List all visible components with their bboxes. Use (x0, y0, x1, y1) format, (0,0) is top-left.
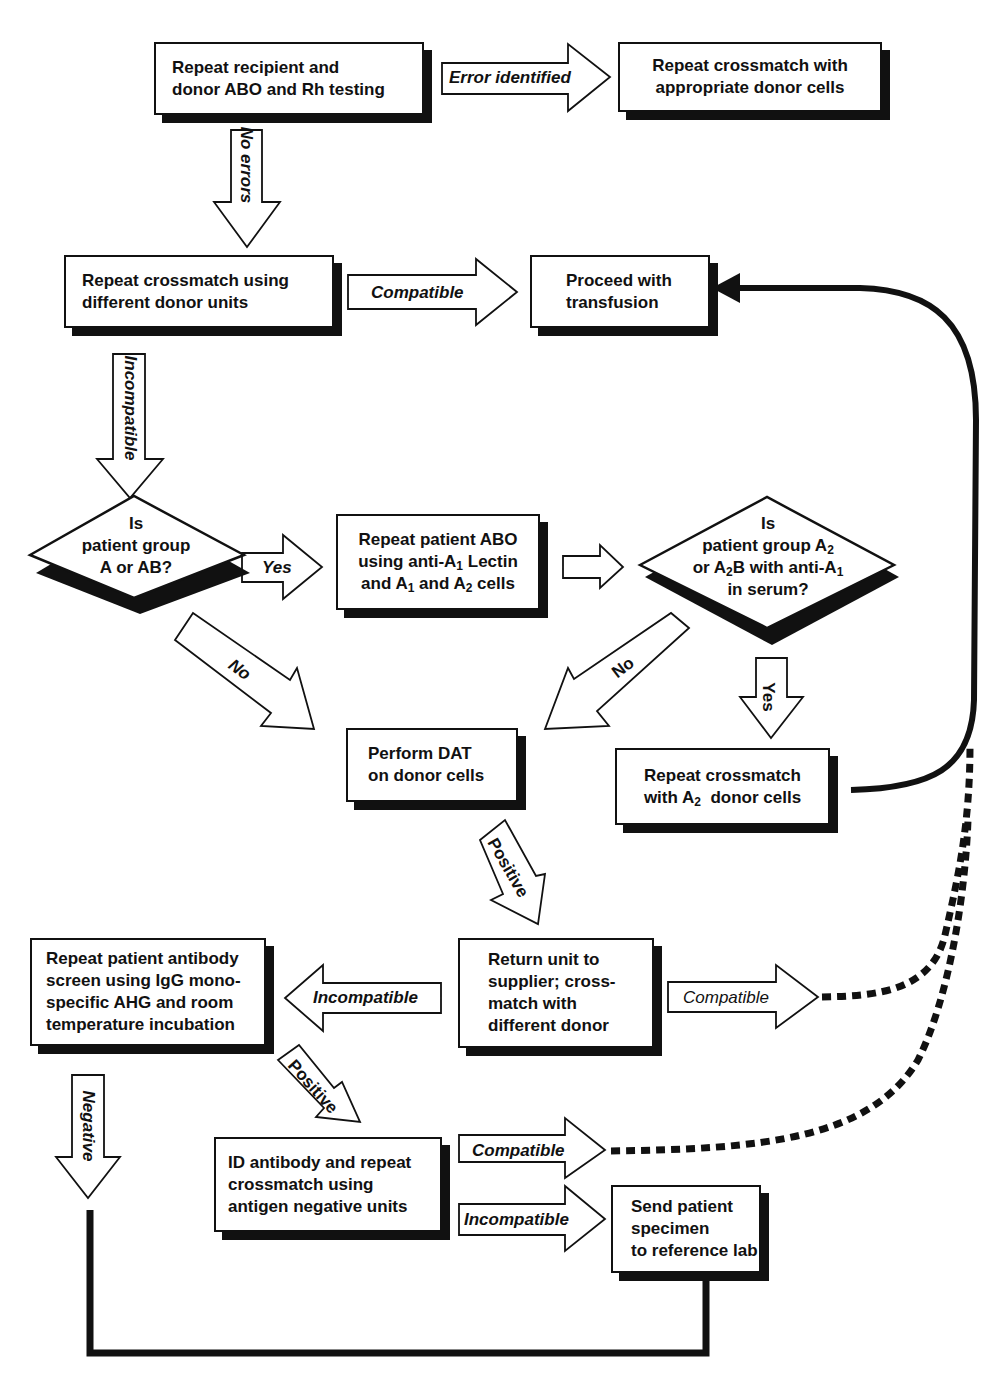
decision-group-a-text: Is patient group A or AB? (50, 513, 222, 579)
edge-label-yes-2: Yes (758, 682, 778, 711)
edge-label-no-errors: No errors (236, 124, 256, 206)
node-repeat-xm-different-units: Repeat crossmatch usingdifferent donor u… (64, 255, 334, 328)
edge-label-incompatible-3: Incompatible (464, 1210, 569, 1230)
node-repeat-abo-rh: Repeat recipient anddonor ABO and Rh tes… (154, 42, 424, 115)
node-send-reference-lab: Send patient specimen to reference lab (611, 1185, 761, 1273)
edge-label-compatible-1: Compatible (371, 283, 464, 303)
edge-label-compatible-3: Compatible (472, 1141, 565, 1161)
arrowhead-proceed (712, 273, 740, 303)
node-proceed-transfusion: Proceed withtransfusion (530, 255, 710, 328)
edge-label-incompatible-1: Incompatible (120, 353, 140, 463)
edge-label-negative: Negative (78, 1086, 98, 1166)
connectors-layer (0, 0, 1007, 1386)
node-repeat-antibody-screen: Repeat patient antibody screen using IgG… (30, 938, 266, 1046)
edge-label-incompatible-2: Incompatible (313, 988, 418, 1008)
edge-label-compatible-2: Compatible (683, 988, 769, 1008)
node-repeat-xm-appropriate: Repeat crossmatch withappropriate donor … (618, 42, 882, 112)
edge-label-error-identified: Error identified (449, 68, 571, 88)
node-id-antibody: ID antibody and repeat crossmatch using … (214, 1137, 442, 1232)
node-repeat-patient-abo: Repeat patient ABO using anti-A1 Lectin … (336, 514, 540, 610)
node-repeat-xm-a2: Repeat crossmatch with A2 donor cells (615, 748, 830, 825)
node-return-unit: Return unit to supplier; cross- match wi… (458, 938, 654, 1048)
node-perform-dat: Perform DATon donor cells (346, 728, 518, 802)
flowchart-canvas: Repeat recipient anddonor ABO and Rh tes… (0, 0, 1007, 1386)
arrow-to-decision-2 (563, 545, 623, 588)
decision-group-a2-text: Is patient group A2 or A2B with anti-A1 … (662, 513, 874, 601)
edge-label-yes-1: Yes (262, 558, 292, 578)
